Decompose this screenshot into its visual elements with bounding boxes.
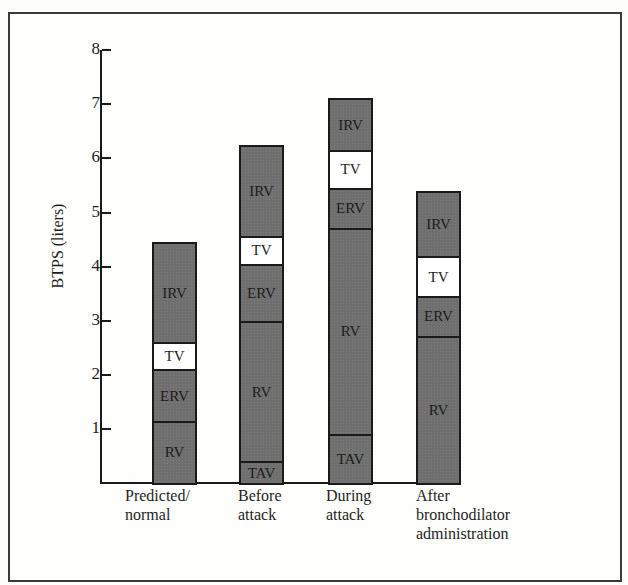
segment-irv: IRV [328,98,373,152]
y-tick [102,374,111,376]
segment-tav: TAV [328,434,373,485]
segment-rv: RV [152,421,197,485]
segment-erv: ERV [328,188,373,230]
y-tick-label: 5 [70,203,100,221]
y-tick [102,103,111,105]
y-axis-label: BTPS (liters) [49,204,67,289]
segment-rv: RV [416,336,461,485]
segment-tv: TV [152,342,197,371]
x-category-label: After bronchodilator administration [416,486,510,543]
y-tick [102,428,111,430]
y-tick-label: 2 [70,365,100,383]
segment-tav: TAV [239,461,284,485]
y-tick [102,320,111,322]
y-tick-label: 8 [70,40,100,58]
y-tick [102,212,111,214]
y-tick-label: 4 [70,257,100,275]
segment-erv: ERV [416,296,461,338]
segment-erv: ERV [152,369,197,422]
y-tick [102,49,111,51]
segment-tv: TV [328,150,373,189]
segment-rv: RV [328,228,373,437]
y-tick [102,157,111,159]
segment-erv: ERV [239,264,284,323]
x-category-label: During attack [326,486,371,524]
x-category-label: Before attack [238,486,282,524]
y-tick-label: 7 [70,94,100,112]
segment-tv: TV [239,236,284,266]
y-tick-label: 3 [70,311,100,329]
segment-tv: TV [416,256,461,297]
segment-irv: IRV [416,191,461,258]
segment-rv: RV [239,321,284,464]
y-tick-label: 1 [70,419,100,437]
y-tick [102,266,111,268]
segment-irv: IRV [239,145,284,237]
segment-irv: IRV [152,242,197,344]
x-category-label: Predicted/ normal [125,486,190,524]
y-tick-label: 6 [70,148,100,166]
